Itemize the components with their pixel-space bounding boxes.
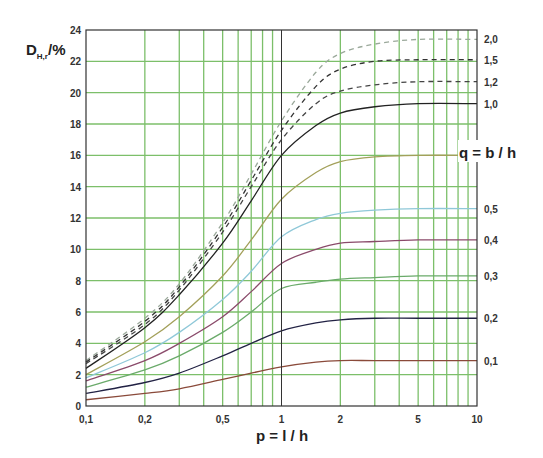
y-tick-label: 12: [70, 213, 82, 224]
y-tick-label: 10: [70, 244, 82, 255]
y-tick-label: 0: [75, 401, 81, 412]
q-label: 0,4: [484, 235, 498, 246]
x-tick-label: 0,1: [79, 414, 93, 425]
x-tick-label: 10: [471, 414, 483, 425]
chart: 0,10,20,512510 024681012141618202224 2,0…: [0, 0, 543, 458]
x-axis-title: p = l / h: [256, 427, 308, 444]
y-axis-ticks: 024681012141618202224: [70, 25, 82, 412]
y-tick-label: 20: [70, 88, 82, 99]
q-curve-labels: 2,01,51,21,00,70,50,40,30,20,1: [484, 34, 498, 366]
x-tick-label: 2: [338, 414, 344, 425]
y-tick-label: 18: [70, 119, 82, 130]
y-tick-label: 8: [75, 276, 81, 287]
x-tick-label: 0,5: [216, 414, 230, 425]
q-label: 0,2: [484, 313, 498, 324]
y-axis-title: DH,r/%: [26, 41, 65, 61]
q-label: 0,1: [484, 356, 498, 367]
q-label: 1,2: [484, 77, 498, 88]
y-tick-label: 24: [70, 25, 82, 36]
q-label: 0,5: [484, 204, 498, 215]
y-tick-label: 14: [70, 182, 82, 193]
x-axis-ticks: 0,10,20,512510: [79, 414, 483, 425]
q-label: 1,0: [484, 99, 498, 110]
y-tick-label: 22: [70, 56, 82, 67]
y-tick-label: 6: [75, 307, 81, 318]
x-tick-label: 0,2: [138, 414, 152, 425]
q-axis-title: q = b / h: [459, 144, 516, 161]
y-tick-label: 4: [75, 338, 81, 349]
y-tick-label: 2: [75, 370, 81, 381]
q-label: 2,0: [484, 34, 498, 45]
q-label: 0,3: [484, 271, 498, 282]
y-tick-label: 16: [70, 150, 82, 161]
x-tick-label: 1: [279, 414, 285, 425]
q-label: 1,5: [484, 55, 498, 66]
x-tick-label: 5: [415, 414, 421, 425]
